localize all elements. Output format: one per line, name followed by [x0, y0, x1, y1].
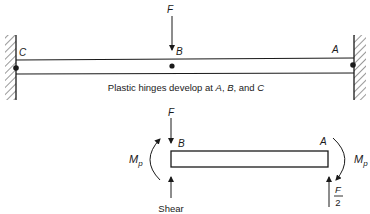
load-label: F	[167, 4, 174, 15]
beam	[16, 58, 354, 74]
shear-label: Shear	[158, 203, 183, 214]
hinge-c-dot	[13, 65, 19, 71]
fixed-beam-diagram: F C B A Plastic hinges develop at A, B, …	[5, 4, 366, 100]
right-fixed-support	[354, 35, 366, 100]
moment-left-label: Mp	[129, 153, 143, 168]
point-b-label: B	[176, 46, 183, 57]
hinge-a-dot	[350, 62, 356, 68]
plastic-hinge-diagram: F C B A Plastic hinges develop at A, B, …	[0, 0, 370, 214]
point-a-label: A	[331, 44, 339, 55]
load-label: F	[168, 107, 175, 118]
caption: Plastic hinges develop at A, B, and C	[108, 82, 264, 93]
free-body-diagram: F B A Mp Mp Shear F 2	[129, 107, 368, 214]
svg-text:2: 2	[335, 197, 340, 208]
hinge-b-dot	[169, 63, 174, 68]
point-b-label: B	[178, 138, 185, 149]
reaction-label: F 2	[334, 184, 343, 208]
point-a-label: A	[319, 136, 327, 147]
moment-left-arrow	[150, 139, 160, 180]
moment-right-arrow	[333, 138, 345, 180]
svg-text:F: F	[335, 184, 342, 195]
point-c-label: C	[19, 47, 27, 58]
moment-right-label: Mp	[354, 153, 368, 168]
beam-segment	[171, 151, 328, 167]
